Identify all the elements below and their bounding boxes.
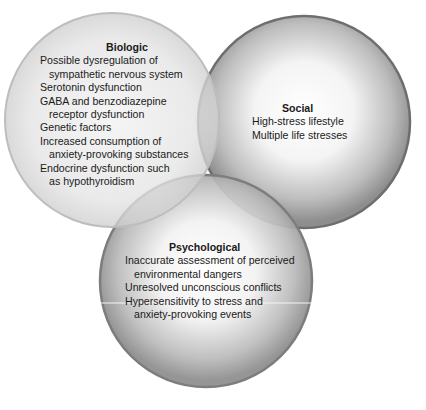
social-label-group: Social High-stress lifestyle Multiple li… <box>252 102 362 142</box>
biologic-item: Increased consumption ofanxiety-provokin… <box>40 135 210 162</box>
item-line-continued: sympathetic nervous system <box>40 68 210 81</box>
item-line-continued: receptor dysfunction <box>40 108 210 121</box>
biologic-label-group: Biologic Possible dysregulation ofsympat… <box>40 41 210 188</box>
item-line: High-stress lifestyle <box>252 115 344 127</box>
item-line-continued: as hypothyroidism <box>40 175 210 188</box>
biologic-title: Biologic <box>40 41 210 54</box>
psychological-item: Inaccurate assessment of perceivedenviro… <box>125 254 305 281</box>
item-line-continued: anxiety-provoking events <box>125 308 305 321</box>
item-line: GABA and benzodiazepine <box>40 95 167 107</box>
item-line: Increased consumption of <box>40 135 161 147</box>
biologic-item: Possible dysregulation ofsympathetic ner… <box>40 54 210 81</box>
item-line: Possible dysregulation of <box>40 54 158 66</box>
item-line-continued: anxiety-provoking substances <box>40 148 210 161</box>
item-line: Hypersensitivity to stress and <box>125 295 263 307</box>
psychological-item: Hypersensitivity to stress andanxiety-pr… <box>125 295 305 322</box>
biologic-item: Endocrine dysfunction suchas hypothyroid… <box>40 162 210 189</box>
psychological-item: Unresolved unconscious conflicts <box>125 281 305 294</box>
item-line: Unresolved unconscious conflicts <box>125 281 282 293</box>
psychological-label-group: Psychological Inaccurate assessment of p… <box>125 241 305 321</box>
item-line: Serotonin dysfunction <box>40 81 142 93</box>
biologic-item: Serotonin dysfunction <box>40 81 210 94</box>
biologic-item: Genetic factors <box>40 121 210 134</box>
social-title: Social <box>252 102 362 115</box>
item-line: Endocrine dysfunction such <box>40 162 170 174</box>
item-line: Multiple life stresses <box>252 129 347 141</box>
item-line-continued: environmental dangers <box>125 268 305 281</box>
social-item: Multiple life stresses <box>252 129 362 142</box>
social-item: High-stress lifestyle <box>252 115 362 128</box>
psychological-title: Psychological <box>125 241 305 254</box>
biologic-item: GABA and benzodiazepinereceptor dysfunct… <box>40 95 210 122</box>
item-line: Genetic factors <box>40 121 111 133</box>
item-line: Inaccurate assessment of perceived <box>125 254 295 266</box>
